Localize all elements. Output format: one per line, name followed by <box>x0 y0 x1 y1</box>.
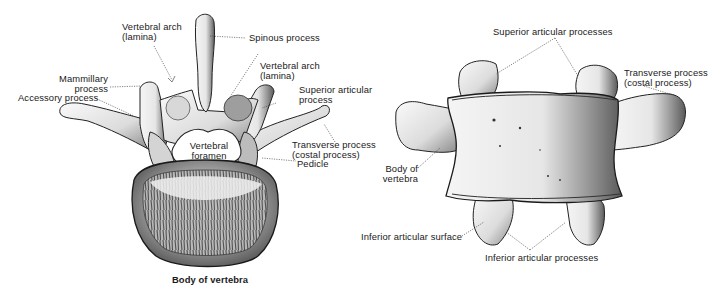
label-superior-articular-process: Superior articular process <box>299 85 372 105</box>
label-body-of-vertebra-right-view: Body of vertebra <box>370 164 418 184</box>
label-mammillary-process: Mammillary process <box>56 74 108 94</box>
label-inferior-articular-surface: Inferior articular surface <box>361 232 462 242</box>
label-pedicle: Pedicle <box>297 159 328 169</box>
label-vertebral-arch-right: Vertebral arch (lamina) <box>260 61 320 81</box>
label-vertebral-foramen: Vertebral foramen <box>186 141 232 161</box>
label-body-of-vertebra-caption: Body of vertebra <box>172 275 248 285</box>
label-spinous-process: Spinous process <box>249 33 320 43</box>
label-vertebral-arch-left: Vertebral arch (lamina) <box>122 22 182 42</box>
label-accessory-process: Accessory process <box>18 93 98 103</box>
label-transverse-process-left-view: Transverse process (costal process) <box>292 140 376 160</box>
label-transverse-process-right-view: Transverse process (costal process) <box>624 68 708 88</box>
label-inferior-articular-processes: Inferior articular processes <box>485 253 598 263</box>
label-superior-articular-processes: Superior articular processes <box>493 27 613 37</box>
